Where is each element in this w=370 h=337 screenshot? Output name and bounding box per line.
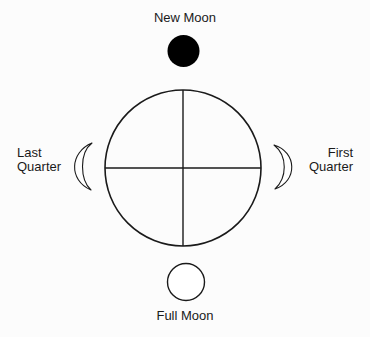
full-moon-label-text: Full Moon — [135, 309, 235, 323]
new-moon-label-text: New Moon — [135, 11, 235, 25]
full-moon-icon — [168, 264, 205, 301]
last-quarter-crescent-icon — [75, 143, 92, 190]
full-moon-label: Full Moon — [135, 309, 235, 323]
last-quarter-label: Last Quarter — [17, 146, 61, 174]
new-moon-icon — [168, 35, 200, 67]
new-moon-label: New Moon — [135, 11, 235, 25]
first-quarter-label: First Quarter — [309, 146, 353, 174]
first-quarter-label-line2: Quarter — [309, 160, 353, 174]
first-quarter-label-line1: First — [309, 146, 353, 160]
last-quarter-label-line2: Quarter — [17, 160, 61, 174]
last-quarter-label-line1: Last — [17, 146, 61, 160]
first-quarter-crescent-icon — [274, 145, 292, 189]
